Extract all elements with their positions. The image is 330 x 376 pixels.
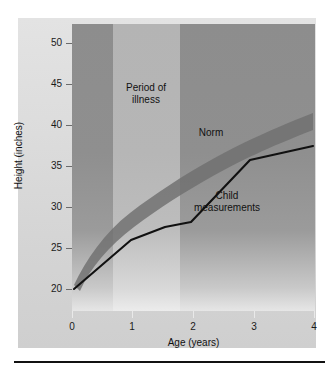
child-measurements-line (74, 146, 313, 289)
xtick-line-2 (193, 311, 194, 318)
xtick-label-2: 2 (183, 322, 203, 332)
xtick-line-4 (314, 311, 315, 318)
ytick-label-45: 45 (34, 79, 62, 89)
chart-curves (72, 24, 315, 311)
growth-chart-figure: 50 45 40 35 30 25 20 Height (inches) 0 1… (0, 0, 330, 376)
xtick-line-0 (72, 311, 73, 318)
xtick-label-3: 3 (244, 322, 264, 332)
xtick-label-4: 4 (304, 322, 324, 332)
ytick-label-40: 40 (34, 120, 62, 130)
x-axis-label: Age (years) (72, 337, 315, 348)
ytick-label-30: 30 (34, 202, 62, 212)
xtick-label-1: 1 (122, 322, 142, 332)
ytick-label-20: 20 (34, 284, 62, 294)
annotation-norm: Norm (190, 127, 232, 139)
ytick-label-50: 50 (34, 38, 62, 48)
annotation-child-measurements: Child measurements (186, 190, 268, 214)
xtick-line-3 (254, 311, 255, 318)
y-axis-label: Height (inches) (13, 101, 24, 211)
plot-area (72, 24, 315, 311)
bottom-rule (14, 361, 325, 363)
xtick-label-0: 0 (62, 322, 82, 332)
xtick-line-1 (132, 311, 133, 318)
ytick-label-25: 25 (34, 243, 62, 253)
annotation-period-of-illness: Period of illness (113, 82, 179, 106)
ytick-label-35: 35 (34, 161, 62, 171)
